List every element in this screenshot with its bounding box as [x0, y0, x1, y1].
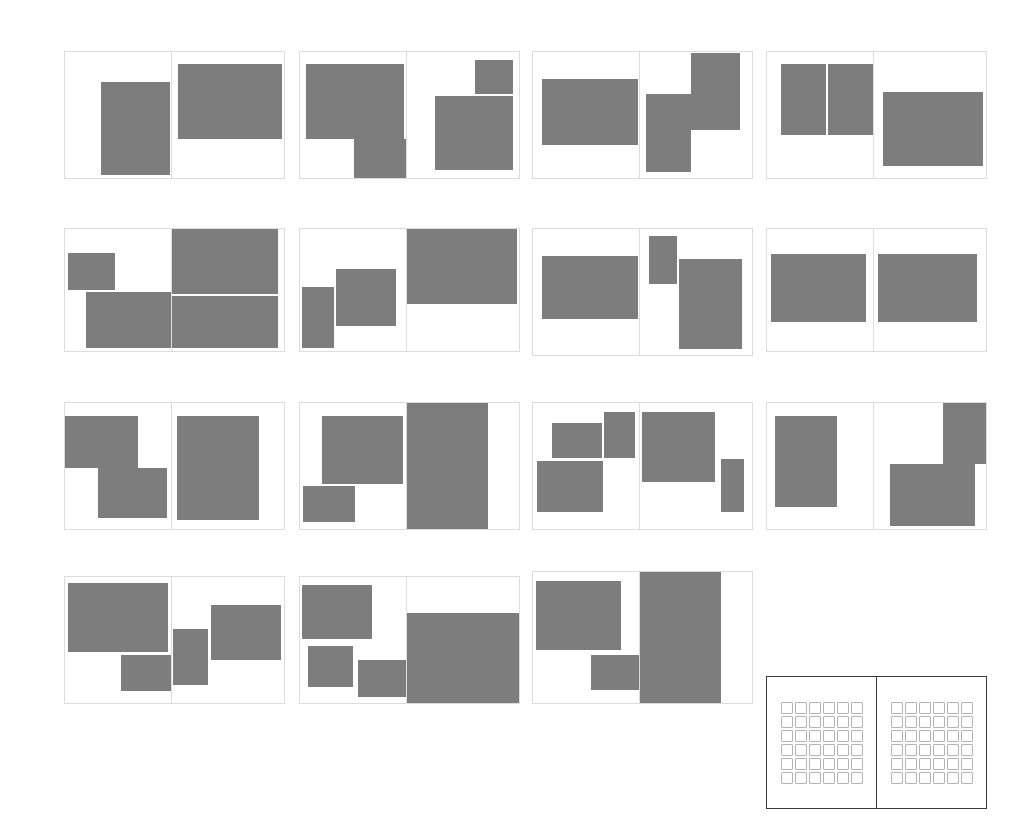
page-left[interactable] [300, 577, 407, 703]
page-right[interactable] [407, 229, 519, 351]
spread-r2c1[interactable] [64, 228, 285, 352]
swatch-cell[interactable] [947, 716, 959, 728]
swatch-cell[interactable] [837, 758, 849, 770]
page-right[interactable] [640, 229, 752, 355]
layout-block[interactable] [302, 287, 334, 348]
page-right[interactable] [407, 52, 519, 178]
layout-block[interactable] [211, 605, 281, 660]
swatch-cell[interactable] [961, 772, 973, 784]
swatch-cell[interactable] [837, 772, 849, 784]
layout-block[interactable] [828, 64, 873, 135]
page-right[interactable] [172, 403, 284, 529]
swatch-cell[interactable] [823, 758, 835, 770]
layout-block[interactable] [303, 486, 355, 522]
layout-block[interactable] [475, 60, 513, 94]
swatch-cell[interactable] [919, 730, 931, 742]
swatch-cell[interactable] [933, 772, 945, 784]
swatch-cell[interactable] [851, 772, 863, 784]
swatch-cell[interactable] [933, 702, 945, 714]
swatch-cell[interactable] [837, 702, 849, 714]
layout-block[interactable] [407, 613, 519, 703]
swatch-cell[interactable] [947, 758, 959, 770]
spread-r3c4[interactable] [766, 402, 987, 530]
spread-r4c2[interactable] [299, 576, 520, 704]
swatch-cell[interactable] [919, 758, 931, 770]
swatch-cell[interactable] [781, 730, 793, 742]
swatch-cell[interactable] [781, 702, 793, 714]
layout-block[interactable] [407, 229, 517, 304]
swatch-cell[interactable] [851, 758, 863, 770]
spread-r4c3[interactable] [532, 571, 753, 704]
page-left[interactable] [65, 52, 172, 178]
layout-block[interactable] [172, 296, 278, 348]
layout-block[interactable] [336, 269, 396, 326]
layout-block[interactable] [542, 79, 638, 145]
swatch-cell[interactable] [933, 758, 945, 770]
swatch-cell[interactable] [961, 702, 973, 714]
swatch-cell[interactable] [961, 716, 973, 728]
swatch-cell[interactable] [891, 744, 903, 756]
layout-block[interactable] [604, 412, 635, 458]
swatch-cell[interactable] [837, 744, 849, 756]
swatch-cell[interactable] [809, 702, 821, 714]
page-left[interactable] [533, 572, 640, 703]
page-right[interactable] [172, 52, 284, 178]
spread-r1c1[interactable] [64, 51, 285, 179]
layout-block[interactable] [121, 655, 172, 691]
layout-block[interactable] [68, 583, 168, 652]
swatch-cell[interactable] [891, 772, 903, 784]
layout-block[interactable] [65, 416, 138, 468]
page-right[interactable] [874, 52, 986, 178]
layout-block[interactable] [98, 468, 167, 518]
swatch-cell[interactable] [795, 702, 807, 714]
layout-block[interactable] [883, 92, 983, 166]
swatch-cell[interactable] [809, 772, 821, 784]
swatch-cell[interactable] [905, 730, 917, 742]
layout-block[interactable] [302, 585, 372, 639]
swatch-cell[interactable] [947, 744, 959, 756]
swatch-cell[interactable] [781, 744, 793, 756]
swatch-cell[interactable] [837, 716, 849, 728]
layout-block[interactable] [640, 572, 721, 703]
swatch-cell[interactable] [851, 744, 863, 756]
layout-block[interactable] [890, 464, 975, 526]
layout-block[interactable] [591, 655, 639, 690]
swatch-cell[interactable] [781, 758, 793, 770]
layout-block[interactable] [646, 94, 691, 172]
swatch-cell[interactable] [823, 744, 835, 756]
page-right[interactable] [172, 229, 284, 351]
spread-r2c2[interactable] [299, 228, 520, 352]
swatch-cell[interactable] [905, 744, 917, 756]
layout-block[interactable] [354, 139, 407, 178]
layout-block[interactable] [177, 416, 259, 520]
page-right[interactable] [874, 229, 986, 351]
swatch-cell[interactable] [919, 744, 931, 756]
swatch-cell[interactable] [837, 730, 849, 742]
page-left[interactable] [65, 229, 172, 351]
layout-block[interactable] [322, 416, 403, 484]
spread-r3c3[interactable] [532, 402, 753, 530]
swatch-cell[interactable] [823, 730, 835, 742]
layout-block[interactable] [306, 64, 404, 139]
layout-block[interactable] [721, 459, 744, 512]
page-left[interactable] [300, 52, 407, 178]
swatch-cell[interactable] [823, 716, 835, 728]
swatch-cell[interactable] [961, 744, 973, 756]
spread-r1c2[interactable] [299, 51, 520, 179]
spread-r3c1[interactable] [64, 402, 285, 530]
page-right[interactable] [407, 577, 519, 703]
layout-block[interactable] [435, 96, 513, 170]
page-right[interactable] [172, 577, 284, 703]
layout-block[interactable] [358, 660, 406, 697]
swatch-cell[interactable] [891, 758, 903, 770]
layout-block[interactable] [771, 254, 866, 322]
layout-block[interactable] [172, 229, 278, 294]
swatch-cell[interactable] [823, 772, 835, 784]
swatch-cell[interactable] [809, 758, 821, 770]
swatch-cell[interactable] [905, 772, 917, 784]
page-right[interactable] [640, 52, 752, 178]
layout-block[interactable] [68, 253, 115, 290]
layout-block[interactable] [536, 581, 621, 650]
layout-block[interactable] [649, 236, 677, 284]
swatch-cell[interactable] [919, 772, 931, 784]
